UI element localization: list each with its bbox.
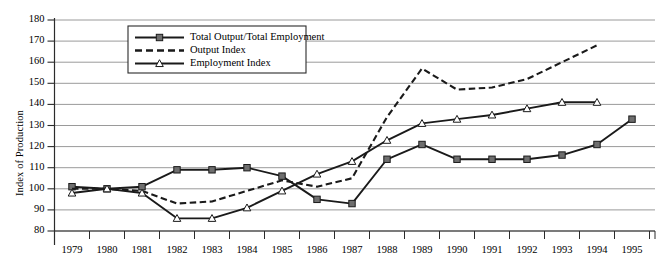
legend-sample-marker-0 — [156, 34, 162, 40]
marker-0-15 — [594, 141, 600, 147]
x-tick-label-1994: 1994 — [577, 244, 617, 255]
x-tick-label-1992: 1992 — [507, 244, 547, 255]
marker-0-9 — [384, 156, 390, 162]
x-tick-label-1979: 1979 — [52, 244, 92, 255]
marker-0-7 — [314, 196, 320, 202]
x-tick-label-1982: 1982 — [157, 244, 197, 255]
x-tick-label-1991: 1991 — [472, 244, 512, 255]
marker-0-11 — [454, 156, 460, 162]
marker-0-14 — [559, 152, 565, 158]
marker-0-16 — [629, 116, 635, 122]
y-tick-label-110: 110 — [19, 161, 45, 172]
y-tick-label-140: 140 — [19, 97, 45, 108]
x-tick-label-1985: 1985 — [262, 244, 302, 255]
x-tick-label-1990: 1990 — [437, 244, 477, 255]
y-tick-label-90: 90 — [19, 203, 45, 214]
y-tick-label-80: 80 — [19, 224, 45, 235]
legend-label-0: Total Output/Total Employment — [190, 31, 324, 42]
x-axis-ticks-group — [55, 231, 656, 239]
marker-0-3 — [174, 167, 180, 173]
chart-container: Index of Production 80901001101201301401… — [0, 0, 661, 264]
x-tick-label-1984: 1984 — [227, 244, 267, 255]
x-tick-label-1995: 1995 — [612, 244, 652, 255]
marker-0-8 — [349, 200, 355, 206]
x-tick-label-1993: 1993 — [542, 244, 582, 255]
x-tick-label-1987: 1987 — [332, 244, 372, 255]
y-tick-label-130: 130 — [19, 119, 45, 130]
y-tick-label-150: 150 — [19, 76, 45, 87]
marker-0-4 — [209, 167, 215, 173]
marker-2-8 — [348, 158, 356, 165]
y-axis-ticks-group — [48, 20, 55, 231]
legend-label-1: Output Index — [190, 44, 246, 55]
y-tick-label-180: 180 — [19, 13, 45, 24]
x-tick-label-1980: 1980 — [87, 244, 127, 255]
x-tick-label-1981: 1981 — [122, 244, 162, 255]
marker-0-12 — [489, 156, 495, 162]
x-tick-label-1988: 1988 — [367, 244, 407, 255]
marker-0-13 — [524, 156, 530, 162]
y-tick-label-170: 170 — [19, 34, 45, 45]
y-tick-label-100: 100 — [19, 182, 45, 193]
x-tick-label-1989: 1989 — [402, 244, 442, 255]
chart-plot-area — [0, 0, 661, 264]
marker-0-10 — [419, 141, 425, 147]
y-tick-label-120: 120 — [19, 140, 45, 151]
x-tick-label-1986: 1986 — [297, 244, 337, 255]
marker-0-5 — [244, 165, 250, 171]
y-tick-label-160: 160 — [19, 55, 45, 66]
marker-0-6 — [279, 173, 285, 179]
legend-label-2: Employment Index — [190, 57, 271, 68]
x-tick-label-1983: 1983 — [192, 244, 232, 255]
